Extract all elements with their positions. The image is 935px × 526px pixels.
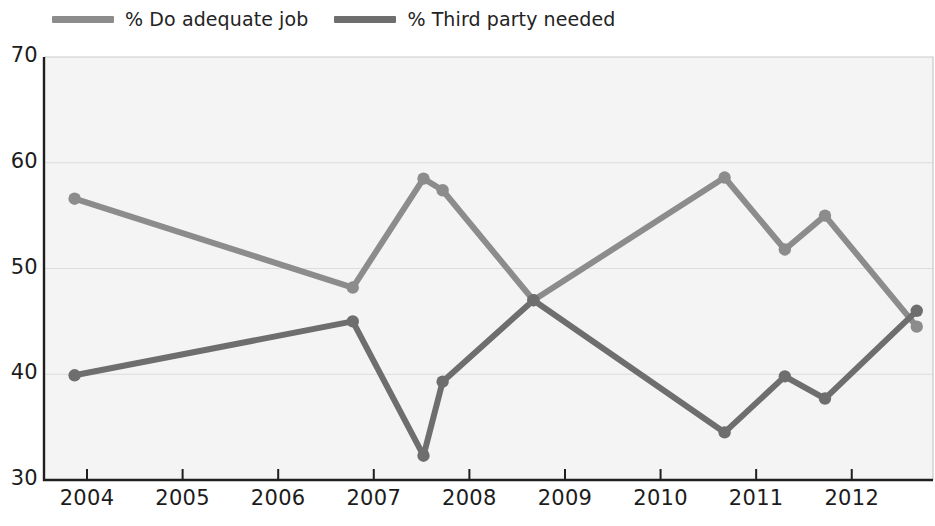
y-tick-label-50: 50 [0, 255, 38, 279]
data-point-s0-7 [819, 209, 831, 221]
x-tick-label-2010: 2010 [625, 486, 697, 510]
x-tick-label-2005: 2005 [147, 486, 219, 510]
data-point-s1-8 [911, 305, 923, 317]
x-tick-label-2009: 2009 [529, 486, 601, 510]
x-tick-label-2007: 2007 [338, 486, 410, 510]
x-tick-label-2012: 2012 [816, 486, 888, 510]
x-tick-label-2004: 2004 [51, 486, 123, 510]
data-point-s0-0 [68, 193, 80, 205]
data-point-s0-1 [347, 281, 359, 293]
x-tick-label-2008: 2008 [433, 486, 505, 510]
y-tick-label-30: 30 [0, 466, 38, 490]
data-point-s1-1 [347, 315, 359, 327]
plot-area: 7060504030 20042005200620072008200920102… [0, 0, 935, 526]
data-point-s0-2 [417, 172, 429, 184]
line-chart: % Do adequate job % Third party needed 7… [0, 0, 935, 526]
data-point-s1-5 [718, 426, 730, 438]
data-point-s1-0 [68, 369, 80, 381]
y-tick-label-70: 70 [0, 43, 38, 67]
data-point-s1-2 [417, 449, 429, 461]
data-point-s1-3 [436, 375, 448, 387]
data-point-s0-5 [718, 171, 730, 183]
plot-svg [0, 0, 935, 526]
data-point-s1-6 [779, 370, 791, 382]
data-point-s1-7 [819, 392, 831, 404]
x-tick-label-2006: 2006 [242, 486, 314, 510]
data-point-s0-6 [779, 243, 791, 255]
data-point-s1-4 [527, 294, 539, 306]
y-tick-label-40: 40 [0, 360, 38, 384]
y-tick-label-60: 60 [0, 149, 38, 173]
x-tick-label-2011: 2011 [720, 486, 792, 510]
data-point-s0-3 [436, 184, 448, 196]
data-point-s0-8 [911, 320, 923, 332]
